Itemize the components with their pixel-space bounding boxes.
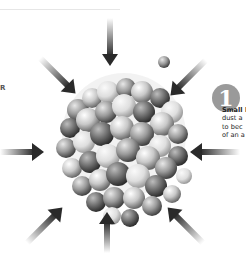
- caption-line-2: dust a: [222, 114, 246, 122]
- sphere-cluster-illustration: [0, 0, 246, 253]
- spheres: [56, 56, 192, 227]
- caption-line-1: Small l: [222, 106, 246, 114]
- caption-line-3: to bec: [222, 123, 246, 131]
- caption-line-4: of an a: [222, 131, 246, 139]
- step-caption: Small l dust a to bec of an a: [222, 106, 246, 140]
